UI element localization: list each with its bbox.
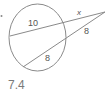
label-top-internal: 10: [28, 18, 38, 28]
label-top-external: x: [76, 8, 82, 17]
answer-text: 7.4: [8, 78, 25, 92]
label-bottom-external: 8: [84, 26, 89, 36]
top-secant-line: [10, 12, 105, 36]
circle: [9, 4, 66, 71]
secant-diagram: 10 x 8 8 7.4: [0, 0, 107, 93]
stray-dot: [1, 15, 3, 17]
label-bottom-internal: 8: [45, 53, 50, 63]
